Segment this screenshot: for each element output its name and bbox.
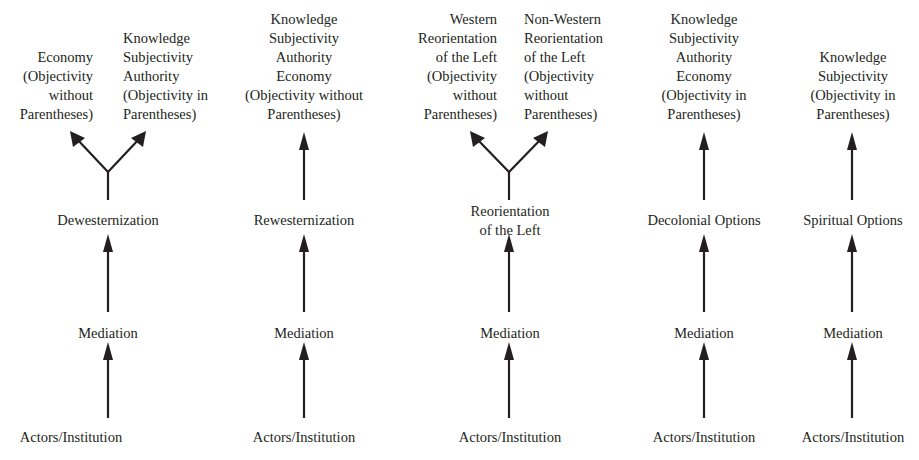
text-line: Parentheses) <box>123 105 208 124</box>
text-line: Parentheses) <box>524 105 603 124</box>
top-label-spiritual: Knowledge Subjectivity (Objectivity in P… <box>811 48 896 124</box>
text-line: Economy <box>662 67 747 86</box>
arrowhead-icon <box>103 342 113 360</box>
text-line: (Objectivity <box>418 67 497 86</box>
text-line: Parentheses) <box>20 105 93 124</box>
mediation-label-1: Mediation <box>78 324 138 343</box>
text-line: Reorientation <box>524 29 603 48</box>
arrowhead-icon <box>504 342 514 360</box>
arrowhead-icon <box>299 234 309 252</box>
text-line: of the Left <box>418 48 497 67</box>
text-line: Parentheses) <box>662 105 747 124</box>
top-label-rewesternization: Knowledge Subjectivity Authority Economy… <box>245 10 363 124</box>
option-label-decolonial: Decolonial Options <box>647 211 760 230</box>
text-line: Economy <box>245 67 363 86</box>
text-line: Western <box>418 10 497 29</box>
arrowhead-icon <box>847 132 857 150</box>
text-line: Decolonial Options <box>647 211 760 230</box>
mediation-label-2: Mediation <box>274 324 334 343</box>
arrow-branch-right-1 <box>108 138 140 172</box>
text-line: Authority <box>245 48 363 67</box>
text-line: Reorientation <box>471 202 550 221</box>
text-line: Knowledge <box>662 10 747 29</box>
text-line: Subjectivity <box>123 48 208 67</box>
text-line: (Objectivity <box>20 67 93 86</box>
arrowhead-icon <box>299 132 309 150</box>
option-label-reorientation: Reorientation of the Left <box>471 202 550 240</box>
text-line: Non-Western <box>524 10 603 29</box>
actors-label-5: Actors/Institution <box>802 428 904 447</box>
text-line: Parentheses) <box>811 105 896 124</box>
text-line: Economy <box>20 48 93 67</box>
text-line: Authority <box>123 67 208 86</box>
text-line: without <box>418 86 497 105</box>
text-line: of the Left <box>471 221 550 240</box>
mediation-label-4: Mediation <box>674 324 734 343</box>
text-line: (Objectivity in <box>123 86 208 105</box>
text-line: (Objectivity <box>524 67 603 86</box>
arrowheads <box>70 131 857 360</box>
arrowhead-icon <box>103 234 113 252</box>
arrowhead-icon <box>699 132 709 150</box>
arrowhead-icon <box>299 342 309 360</box>
right-branch-label-dewesternization: Knowledge Subjectivity Authority (Object… <box>123 29 208 124</box>
arrowhead-icon <box>847 342 857 360</box>
text-line: Parentheses) <box>418 105 497 124</box>
option-label-spiritual: Spiritual Options <box>803 211 903 230</box>
top-label-decolonial: Knowledge Subjectivity Authority Economy… <box>662 10 747 124</box>
option-label-rewesternization: Rewesternization <box>254 211 355 230</box>
arrowhead-icon <box>847 234 857 252</box>
actors-label-1: Actors/Institution <box>20 428 122 447</box>
text-line: Parentheses) <box>245 105 363 124</box>
text-line: Subjectivity <box>811 67 896 86</box>
text-line: Subjectivity <box>662 29 747 48</box>
text-line: without <box>20 86 93 105</box>
text-line: Knowledge <box>123 29 208 48</box>
right-branch-label-reorientation: Non-Western Reorientation of the Left (O… <box>524 10 603 124</box>
text-line: Dewesternization <box>57 211 158 230</box>
option-label-dewesternization: Dewesternization <box>57 211 158 230</box>
arrow-branch-right-3 <box>509 138 542 172</box>
text-line: Spiritual Options <box>803 211 903 230</box>
text-line: (Objectivity in <box>662 86 747 105</box>
actors-label-2: Actors/Institution <box>253 428 355 447</box>
mediation-label-3: Mediation <box>480 324 540 343</box>
text-line: (Objectivity without <box>245 86 363 105</box>
text-line: Subjectivity <box>245 29 363 48</box>
text-line: Rewesternization <box>254 211 355 230</box>
text-line: Knowledge <box>811 48 896 67</box>
arrowhead-icon <box>699 342 709 360</box>
arrowhead-icon <box>699 234 709 252</box>
text-line: of the Left <box>524 48 603 67</box>
text-line: (Objectivity in <box>811 86 896 105</box>
arrow-branch-left-3 <box>476 138 509 172</box>
left-branch-label-dewesternization: Economy (Objectivity without Parentheses… <box>20 48 93 124</box>
actors-label-3: Actors/Institution <box>459 428 561 447</box>
arrow-branch-left-1 <box>76 138 108 172</box>
text-line: Knowledge <box>245 10 363 29</box>
left-branch-label-reorientation: Western Reorientation of the Left (Objec… <box>418 10 497 124</box>
text-line: without <box>524 86 603 105</box>
text-line: Reorientation <box>418 29 497 48</box>
mediation-label-5: Mediation <box>823 324 883 343</box>
actors-label-4: Actors/Institution <box>653 428 755 447</box>
text-line: Authority <box>662 48 747 67</box>
